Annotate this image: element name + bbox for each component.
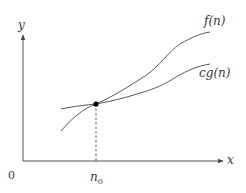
cg-n-curve bbox=[61, 64, 210, 109]
intersection-point bbox=[93, 101, 98, 106]
x-axis-label: x bbox=[227, 154, 234, 166]
f-n-label: f(n) bbox=[204, 15, 226, 27]
n0-subscript: 0 bbox=[98, 177, 103, 186]
f-n-curve bbox=[61, 32, 210, 131]
origin-label: 0 bbox=[8, 170, 15, 181]
cg-n-label: cg(n) bbox=[199, 67, 231, 79]
diagram-canvas bbox=[0, 0, 246, 193]
y-axis-label: y bbox=[18, 19, 25, 31]
big-omega-diagram: y x 0 n0 f(n) cg(n) bbox=[0, 0, 246, 193]
n0-label: n0 bbox=[90, 171, 103, 186]
n0-main: n bbox=[90, 170, 98, 184]
